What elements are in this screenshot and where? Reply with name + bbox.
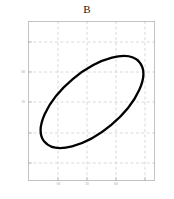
figure-panel: B — [0, 0, 174, 199]
x-tick-label: 20 — [85, 182, 88, 186]
plot-area: -20 20 60 60 20 — [28, 21, 155, 181]
x-tick-label: 60 — [114, 182, 117, 186]
page-title: B — [0, 2, 174, 16]
y-tick-label: 20 — [16, 100, 25, 104]
x-tick-label: -20 — [56, 182, 61, 186]
y-tick-label: 60 — [16, 70, 25, 74]
plot-background — [28, 21, 155, 181]
plot-svg — [28, 21, 155, 181]
